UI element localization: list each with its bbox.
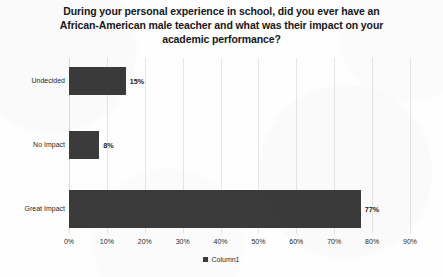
x-axis-tick-label: 90% <box>397 238 423 245</box>
x-axis-tick-label: 10% <box>94 238 120 245</box>
x-axis-tick-label: 60% <box>283 238 309 245</box>
category-label-undecided: Undecided <box>3 77 65 84</box>
chart-legend: Column1 <box>0 256 443 263</box>
chart-figure: 0%10%20%30%40%50%60%70%80%90%15%Undecide… <box>0 0 443 277</box>
bar-value-label: 77% <box>365 205 379 214</box>
bar-value-label: 8% <box>103 141 113 150</box>
bar-great-impact[interactable] <box>69 190 361 228</box>
x-axis-tick-label: 40% <box>208 238 234 245</box>
bar-no-impact[interactable] <box>69 131 99 159</box>
x-axis-tick-label: 80% <box>359 238 385 245</box>
x-axis-tick-label: 70% <box>321 238 347 245</box>
bar-undecided[interactable] <box>69 67 126 95</box>
legend-label: Column1 <box>211 256 239 263</box>
x-axis-tick-label: 50% <box>245 238 271 245</box>
plot-area <box>69 58 410 234</box>
category-label-no-impact: No Impact <box>3 141 65 148</box>
x-axis-tick-label: 30% <box>170 238 196 245</box>
gridline-90 <box>410 58 411 234</box>
x-axis-tick-label: 20% <box>132 238 158 245</box>
bar-value-label: 15% <box>130 77 144 86</box>
category-label-great-impact: Great Impact <box>3 205 65 212</box>
x-axis-tick-label: 0% <box>56 238 82 245</box>
legend-swatch-icon <box>203 257 208 262</box>
